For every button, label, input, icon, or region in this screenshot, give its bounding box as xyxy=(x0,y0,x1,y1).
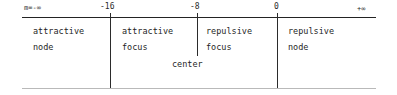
axis-tick-label-minus-16: -16 xyxy=(100,2,114,12)
region-repulsive-focus-line2: focus xyxy=(206,39,252,55)
axis-tick-label-zero: 0 xyxy=(274,2,279,12)
region-attractive-focus-line1: attractive xyxy=(122,23,173,39)
region-attractive-focus: attractive focus xyxy=(122,23,173,55)
axis-label-positive-infinity: +∞ xyxy=(357,4,365,14)
region-repulsive-focus-line1: repulsive xyxy=(206,23,252,39)
center-label: center xyxy=(172,56,203,72)
table-bottom-rule xyxy=(22,88,376,89)
region-repulsive-node-line2: node xyxy=(288,39,334,55)
region-attractive-focus-line2: focus xyxy=(122,39,173,55)
region-repulsive-node-line1: repulsive xyxy=(288,23,334,39)
region-divider-zero xyxy=(277,18,278,88)
axis-top-rule xyxy=(22,17,376,18)
region-attractive-node-line2: node xyxy=(33,39,84,55)
region-attractive-node: attractive node xyxy=(33,23,84,55)
region-attractive-node-line1: attractive xyxy=(33,23,84,39)
stability-number-line-diagram: m=-∞ -16 -8 0 +∞ attractive node attract… xyxy=(0,0,397,95)
region-repulsive-node: repulsive node xyxy=(288,23,334,55)
axis-tick-label-minus-8: -8 xyxy=(190,2,200,12)
region-divider-minus-16 xyxy=(110,18,111,88)
axis-label-negative-infinity: m=-∞ xyxy=(24,3,41,13)
region-repulsive-focus: repulsive focus xyxy=(206,23,252,55)
region-divider-minus-8 xyxy=(197,18,198,56)
